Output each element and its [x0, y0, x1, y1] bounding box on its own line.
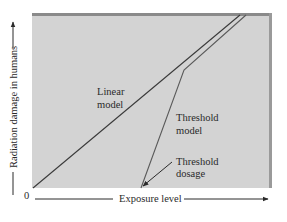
- threshold-dosage-label-2: dosage: [176, 168, 205, 179]
- y-axis-label: Radiation damage in humans: [8, 46, 19, 168]
- linear-model-label-2: model: [97, 99, 123, 110]
- linear-model-label-1: Linear: [97, 86, 125, 97]
- threshold-model-label-1: Threshold: [176, 112, 219, 123]
- threshold-model-label-2: model: [176, 125, 202, 136]
- origin-label: 0: [24, 190, 29, 201]
- x-axis-label: Exposure level: [119, 193, 182, 204]
- threshold-diagram: Linear model Threshold model Threshold d…: [0, 0, 287, 222]
- plot-panel: [32, 13, 272, 188]
- threshold-dosage-label-1: Threshold: [176, 156, 219, 167]
